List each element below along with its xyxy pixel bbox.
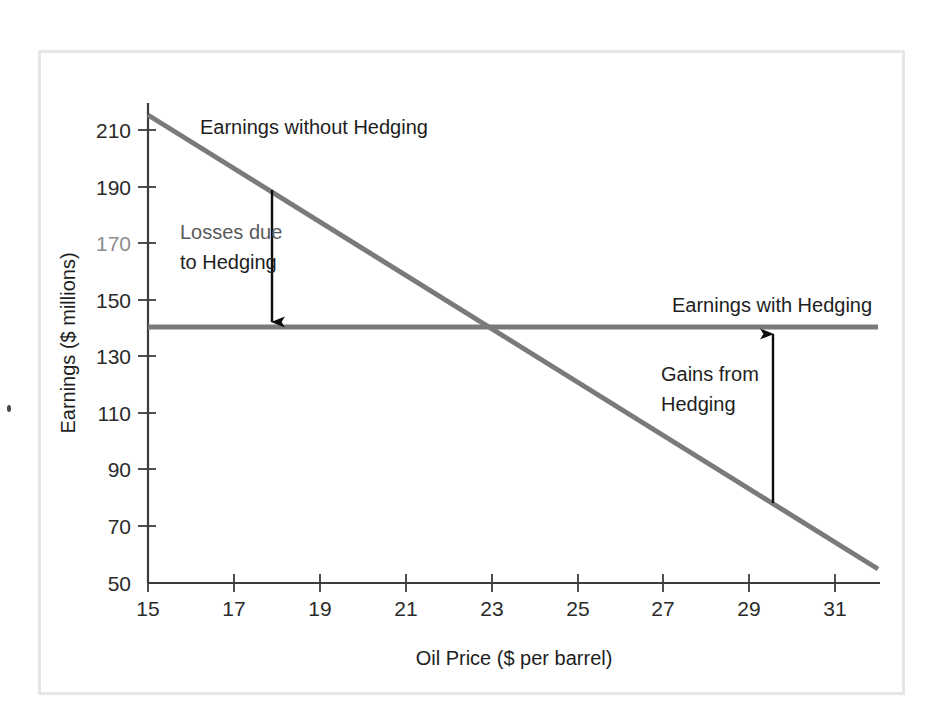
figure-page: 210 190 170 150 130 110 90 70 50 15 17 1… <box>0 0 940 725</box>
x-tick-label-25: 25 <box>566 597 589 620</box>
x-tick-label-15: 15 <box>136 597 159 620</box>
y-tick-label-50: 50 <box>108 572 131 595</box>
losses-label-line2: to Hedging <box>180 251 277 273</box>
y-tick-label-190: 190 <box>96 176 131 199</box>
series-line-earnings-without-hedging <box>148 115 878 569</box>
x-tick-label-29: 29 <box>737 597 760 620</box>
x-axis-tick-labels: 15 17 19 21 23 25 27 29 31 <box>136 597 846 620</box>
x-tick-label-31: 31 <box>823 597 846 620</box>
x-tick-label-17: 17 <box>222 597 245 620</box>
y-axis-tick-labels: 210 190 170 150 130 110 90 70 50 <box>96 119 131 595</box>
x-tick-label-27: 27 <box>651 597 674 620</box>
losses-label-line1: Losses due <box>180 221 282 243</box>
annotation-gains-from-hedging: Gains from Hedging <box>661 334 773 503</box>
y-tick-label-210: 210 <box>96 119 131 142</box>
y-tick-label-110: 110 <box>98 402 131 425</box>
y-tick-label-150: 150 <box>96 289 131 312</box>
series-label-earnings-without-hedging: Earnings without Hedging <box>200 116 428 138</box>
x-tick-label-21: 21 <box>394 597 417 620</box>
x-tick-label-23: 23 <box>480 597 503 620</box>
y-tick-label-130: 130 <box>96 345 131 368</box>
annotation-losses-due-to-hedging: Losses due to Hedging <box>180 190 282 322</box>
gains-label-line1: Gains from <box>661 363 759 385</box>
y-tick-label-170: 170 <box>96 232 131 255</box>
gains-label-line2: Hedging <box>661 393 736 415</box>
y-axis-title: Earnings ($ millions) <box>57 252 79 433</box>
x-tick-label-19: 19 <box>308 597 331 620</box>
earnings-hedging-chart: 210 190 170 150 130 110 90 70 50 15 17 1… <box>0 0 940 725</box>
y-tick-label-70: 70 <box>108 515 131 538</box>
x-axis-title: Oil Price ($ per barrel) <box>416 647 613 669</box>
series-label-earnings-with-hedging: Earnings with Hedging <box>672 294 872 316</box>
y-tick-label-90: 90 <box>108 458 131 481</box>
